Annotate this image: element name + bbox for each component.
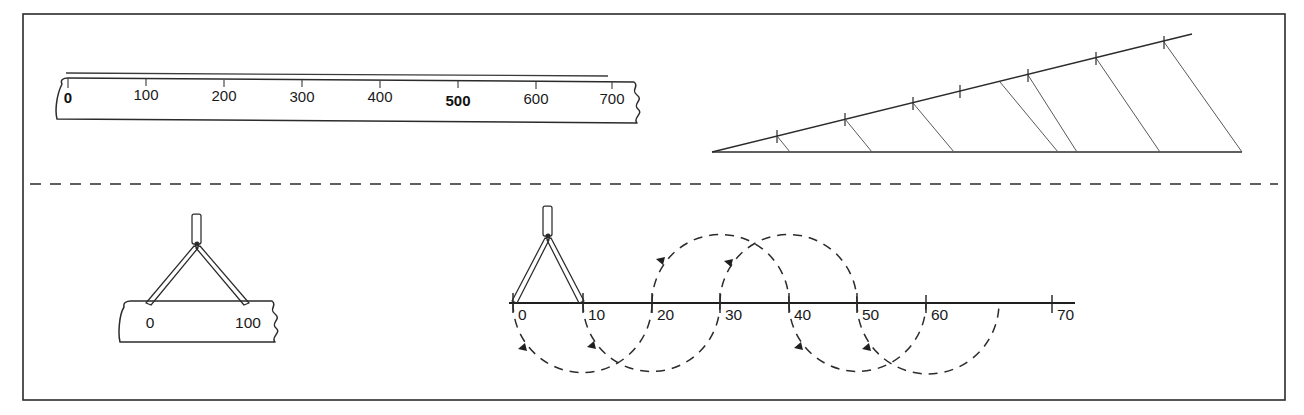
step-arc-group <box>513 234 999 374</box>
axis-label-0: 0 <box>518 306 527 323</box>
figure-canvas: 0 100 200 300 400 500 600 700 <box>0 0 1304 415</box>
compass-small-handle <box>192 214 201 244</box>
compass-small-pivot <box>194 241 199 246</box>
compass-small-left-leg <box>146 246 198 305</box>
ruler-label-500: 500 <box>445 92 470 109</box>
axis-label-20: 20 <box>657 306 675 323</box>
main-axis-labels: 0 10 20 30 40 50 60 70 <box>518 306 1075 323</box>
step-arc-50-70-arrow <box>862 343 871 351</box>
ruler-label-300: 300 <box>289 88 314 105</box>
figure-root: 0 100 200 300 400 500 600 700 <box>0 0 1304 415</box>
step-arc-10-30-arrow <box>587 341 596 349</box>
axis-label-40: 40 <box>794 306 812 323</box>
ruler-label-200: 200 <box>211 87 236 104</box>
axis-label-10: 10 <box>588 306 606 323</box>
compass-main-right-leg <box>547 238 584 303</box>
wedge-ribs <box>777 42 1242 152</box>
step-arc-30-50 <box>720 234 857 303</box>
main-axis-group: 0 10 20 30 40 50 60 70 <box>509 293 1075 323</box>
step-arc-0-20-arrow <box>518 343 527 351</box>
wedge-group <box>712 34 1242 152</box>
small-scale-label-0: 0 <box>146 314 155 331</box>
compass-small-right-leg <box>196 246 249 305</box>
ruler-label-700: 700 <box>599 90 624 107</box>
ruler-label-0: 0 <box>64 89 72 106</box>
ruler-label-600: 600 <box>523 90 548 107</box>
ruler-top-edge <box>66 73 608 76</box>
compass-main-left-leg <box>512 238 549 303</box>
wedge-hypotenuse-ticks <box>777 36 1164 143</box>
step-arc-20-40-arrow <box>656 257 665 265</box>
axis-label-50: 50 <box>862 306 880 323</box>
step-arc-40-60-arrow <box>794 342 803 350</box>
step-arc-20-40 <box>652 234 789 303</box>
step-arc-0-20 <box>513 303 652 373</box>
small-scale-group: 0 100 <box>119 301 278 342</box>
axis-label-30: 30 <box>725 306 743 323</box>
ruler-label-400: 400 <box>367 88 392 105</box>
ruler-label-100: 100 <box>133 86 158 103</box>
small-scale-label-100: 100 <box>235 314 261 331</box>
compass-main-pivot <box>545 233 550 238</box>
axis-label-60: 60 <box>931 306 949 323</box>
compass-main <box>512 206 584 303</box>
axis-label-70: 70 <box>1057 306 1075 323</box>
compass-small <box>146 214 249 305</box>
top-ruler-group: 0 100 200 300 400 500 600 700 <box>56 73 640 123</box>
compass-main-handle <box>543 206 552 236</box>
